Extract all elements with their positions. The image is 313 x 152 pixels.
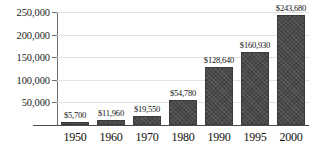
- bar-group: $11,960: [93, 12, 129, 125]
- x-axis-category-label: 1995: [243, 130, 266, 145]
- bar-value-label: $5,700: [64, 110, 86, 120]
- bar-value-label: $128,640: [204, 55, 234, 65]
- bar-chart: 50,000100,000150,000200,000250,000 $5,70…: [0, 0, 313, 152]
- x-axis-labels: 1950196019701980199019952000: [57, 130, 309, 150]
- x-axis-category-label: 1960: [99, 130, 122, 145]
- x-axis-category-label: 1990: [207, 130, 230, 145]
- bar-group: $243,680: [273, 12, 309, 125]
- y-axis-tick-label: 150,000: [17, 52, 50, 63]
- bar[interactable]: [61, 122, 89, 125]
- bar-group: $160,930: [237, 12, 273, 125]
- x-axis-line: [33, 125, 309, 126]
- bar-value-label: $19,550: [134, 104, 160, 114]
- x-axis-category-label: 1970: [135, 130, 158, 145]
- y-axis-tick-label: 250,000: [17, 7, 50, 18]
- bar-value-label: $160,930: [240, 40, 270, 50]
- bar[interactable]: [205, 67, 233, 125]
- bar-group: $54,780: [165, 12, 201, 125]
- bar[interactable]: [169, 100, 197, 125]
- bar[interactable]: [277, 15, 305, 125]
- bar-value-label: $11,960: [98, 108, 124, 118]
- bar-group: $19,550: [129, 12, 165, 125]
- x-axis-category-label: 1980: [171, 130, 194, 145]
- bar[interactable]: [241, 52, 269, 125]
- y-axis-tick-label: 50,000: [22, 97, 50, 108]
- bar-series: $5,700$11,960$19,550$54,780$128,640$160,…: [57, 12, 309, 125]
- bar[interactable]: [133, 116, 161, 125]
- bar-value-label: $243,680: [276, 3, 306, 13]
- bar[interactable]: [97, 120, 125, 125]
- x-axis-category-label: 1950: [63, 130, 86, 145]
- plot-area: $5,700$11,960$19,550$54,780$128,640$160,…: [57, 12, 309, 125]
- bar-value-label: $54,780: [170, 88, 196, 98]
- x-axis-category-label: 2000: [279, 130, 302, 145]
- bar-group: $128,640: [201, 12, 237, 125]
- y-axis-tick-label: 100,000: [17, 74, 50, 85]
- y-axis-tick-label: 200,000: [17, 29, 50, 40]
- bar-group: $5,700: [57, 12, 93, 125]
